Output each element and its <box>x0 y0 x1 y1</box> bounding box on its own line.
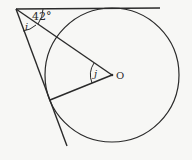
top-tangent-line <box>16 8 160 9</box>
circle-tangent-diagram: 42° i j O <box>0 0 192 160</box>
angle-i-label: i <box>25 21 28 32</box>
center-point <box>111 74 114 77</box>
radius-to-tangent-point <box>50 75 112 100</box>
center-label: O <box>116 70 124 81</box>
angle-42-label: 42° <box>32 10 52 23</box>
lower-tangent-line <box>16 9 67 146</box>
angle-j-label: j <box>92 68 97 79</box>
vertex-to-center-line <box>16 9 112 75</box>
